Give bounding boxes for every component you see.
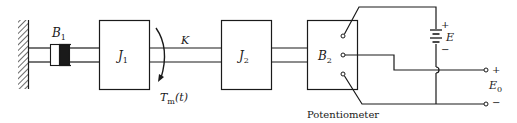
output-plus-sign: + — [492, 65, 500, 75]
torque-arrow-icon — [156, 28, 165, 82]
label-j1: J1 — [118, 50, 128, 65]
battery-icon — [430, 30, 442, 42]
circuit-wiring — [345, 7, 485, 104]
fixed-wall — [18, 20, 29, 89]
label-k: K — [181, 35, 189, 46]
shaft-j2-to-b2 — [272, 48, 307, 62]
system-diagram — [0, 0, 517, 123]
label-j2: J2 — [239, 50, 249, 65]
label-b1: B1 — [52, 27, 66, 42]
potentiometer-caption: Potentiometer — [307, 110, 379, 120]
label-e0: E0 — [489, 80, 502, 94]
output-minus-sign: − — [492, 98, 500, 108]
damper-b1 — [51, 45, 72, 66]
battery-plus-sign: + — [441, 20, 449, 30]
label-e: E — [446, 32, 454, 43]
label-b2: B2 — [318, 50, 332, 65]
label-torque: Tm(t) — [160, 92, 188, 106]
shaft-spring-k — [150, 48, 221, 62]
battery-minus-sign: − — [441, 45, 449, 55]
output-terminals — [484, 68, 488, 106]
